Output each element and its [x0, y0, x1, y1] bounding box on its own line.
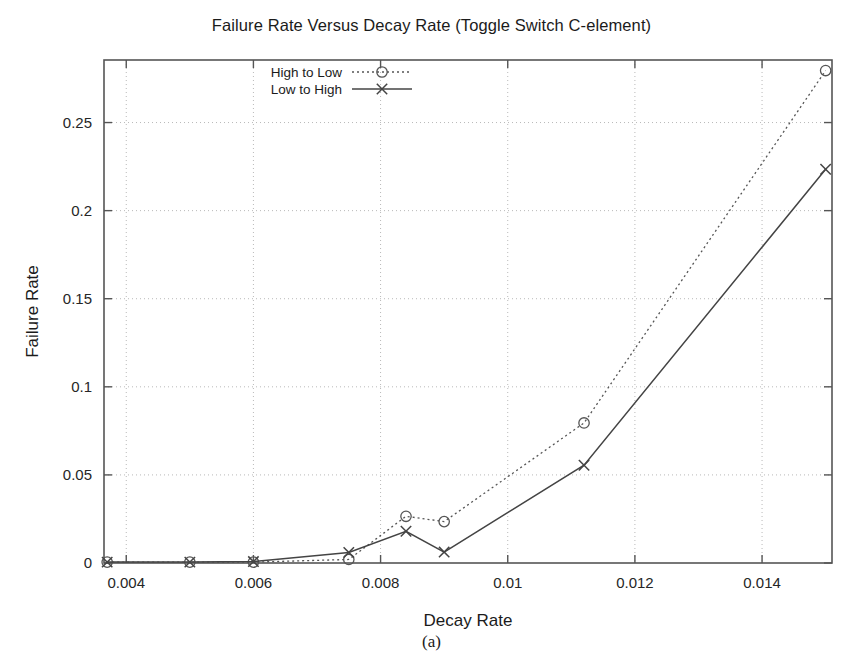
svg-text:0.004: 0.004 [107, 574, 145, 591]
svg-text:0.05: 0.05 [63, 466, 92, 483]
svg-text:0.006: 0.006 [235, 574, 273, 591]
axis-ticks [104, 60, 832, 563]
svg-text:0.012: 0.012 [616, 574, 654, 591]
svg-text:0.008: 0.008 [362, 574, 400, 591]
tick-labels: 0.0040.0060.0080.010.0120.01400.050.10.1… [63, 114, 781, 591]
figure-caption: (a) [0, 632, 863, 652]
plot-frame [104, 60, 832, 563]
svg-text:0: 0 [84, 554, 92, 571]
svg-text:Failure Rate: Failure Rate [23, 265, 42, 358]
svg-text:0.15: 0.15 [63, 290, 92, 307]
svg-text:Low to High: Low to High [271, 82, 342, 97]
data-series [102, 65, 831, 567]
svg-text:Decay Rate: Decay Rate [424, 611, 513, 630]
svg-text:0.014: 0.014 [743, 574, 781, 591]
gridlines [104, 60, 832, 563]
chart-legend: High to LowLow to High [271, 65, 412, 97]
svg-text:0.1: 0.1 [71, 378, 92, 395]
svg-text:High to Low: High to Low [271, 65, 343, 80]
svg-text:0.25: 0.25 [63, 114, 92, 131]
svg-text:0.01: 0.01 [493, 574, 522, 591]
figure-container: Failure Rate Versus Decay Rate (Toggle S… [0, 0, 863, 671]
plot-area: 0.0040.0060.0080.010.0120.01400.050.10.1… [0, 0, 863, 671]
svg-text:0.2: 0.2 [71, 202, 92, 219]
